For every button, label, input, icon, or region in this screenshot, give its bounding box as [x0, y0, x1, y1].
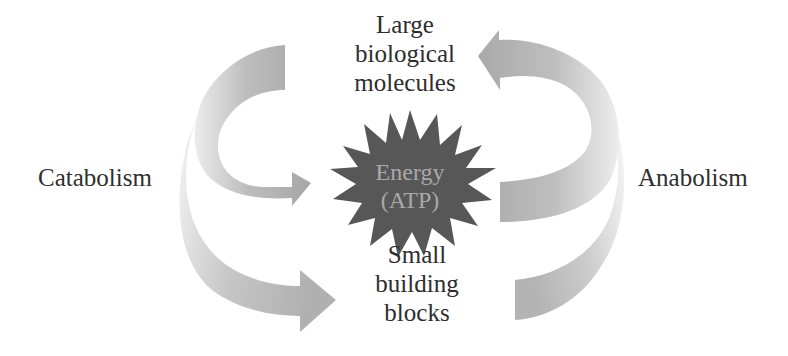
energy-atp-label: Energy (ATP)	[355, 158, 465, 214]
large-biological-molecules-label: Large biological molecules	[330, 10, 480, 97]
arrow-catabolism-to-energy	[195, 45, 311, 206]
bottom-node-line-1: Small	[362, 240, 472, 269]
anabolism-label: Anabolism	[638, 163, 748, 192]
energy-line: Energy	[355, 158, 465, 186]
top-node-line-3: molecules	[330, 68, 480, 97]
small-building-blocks-label: Small building blocks	[362, 240, 472, 327]
arrow-anabolism-energy-to-molecules	[478, 30, 619, 222]
catabolism-label: Catabolism	[38, 163, 152, 192]
bottom-node-line-2: building	[362, 269, 472, 298]
top-node-line-1: Large	[330, 10, 480, 39]
metabolism-diagram: Large biological molecules Energy (ATP) …	[0, 0, 788, 356]
atp-line: (ATP)	[355, 186, 465, 214]
bottom-node-line-3: blocks	[362, 298, 472, 327]
top-node-line-2: biological	[330, 39, 480, 68]
